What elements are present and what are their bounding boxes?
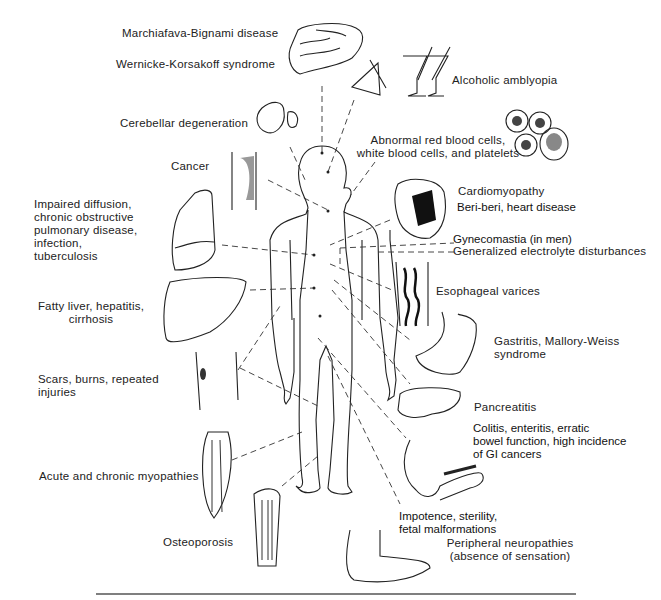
label-scars: Scars, burns, repeated injuries bbox=[38, 373, 159, 399]
label-line: Scars, burns, repeated bbox=[38, 373, 159, 386]
skin-scars-illustration bbox=[196, 352, 238, 410]
brain-illustration bbox=[289, 24, 362, 74]
label-osteoporosis: Osteoporosis bbox=[163, 536, 233, 549]
label-abnormal-blood-cells: Abnormal red blood cells, white blood ce… bbox=[348, 134, 528, 160]
label-colitis: Colitis, enteritis, erratic bowel functi… bbox=[473, 422, 626, 461]
label-line: bowel function, high incidence bbox=[473, 435, 626, 448]
label-line: (absence of sensation) bbox=[440, 550, 580, 563]
label-line: infection, bbox=[34, 237, 137, 250]
foot-illustration bbox=[347, 530, 430, 582]
label-line: of GI cancers bbox=[473, 448, 626, 461]
human-figure bbox=[270, 146, 398, 494]
eye-illustration bbox=[352, 60, 386, 95]
label-marchiafava-bignami: Marchiafava-Bignami disease bbox=[122, 27, 278, 40]
bone-illustration bbox=[254, 489, 280, 566]
cocktail-glasses-illustration bbox=[403, 47, 450, 96]
esophageal-varices-illustration bbox=[396, 262, 428, 326]
stomach-illustration bbox=[416, 312, 476, 374]
pancreas-illustration bbox=[398, 388, 460, 418]
label-line: Abnormal red blood cells, bbox=[348, 134, 528, 147]
label-pancreatitis: Pancreatitis bbox=[474, 401, 536, 414]
label-esophageal-varices: Esophageal varices bbox=[436, 285, 540, 298]
lung-illustration bbox=[172, 190, 215, 270]
esophagus-tumor-illustration bbox=[232, 152, 256, 210]
label-impotence: Impotence, sterility, fetal malformation… bbox=[399, 510, 497, 536]
label-line: Peripheral neuropathies bbox=[440, 537, 580, 550]
label-lung-conditions: Impaired diffusion, chronic obstructive … bbox=[34, 198, 137, 263]
label-line: fetal malformations bbox=[399, 523, 497, 536]
label-line: pulmonary disease, bbox=[34, 224, 137, 237]
label-line: chronic obstructive bbox=[34, 211, 137, 224]
label-line: syndrome bbox=[494, 348, 619, 361]
label-cerebellar-degeneration: Cerebellar degeneration bbox=[120, 117, 248, 130]
intestine-illustration bbox=[404, 440, 483, 500]
label-line: tuberculosis bbox=[34, 250, 137, 263]
label-cancer: Cancer bbox=[171, 160, 209, 173]
liver-illustration bbox=[164, 278, 246, 342]
label-gastritis: Gastritis, Mallory-Weiss syndrome bbox=[494, 335, 619, 361]
label-line: Impaired diffusion, bbox=[34, 198, 137, 211]
label-liver-conditions: Fatty liver, hepatitis, cirrhosis bbox=[36, 300, 146, 326]
label-line: Impotence, sterility, bbox=[399, 510, 497, 523]
label-cardiomyopathy: Cardiomyopathy bbox=[458, 185, 545, 198]
label-alcoholic-amblyopia: Alcoholic amblyopia bbox=[452, 74, 557, 87]
label-line: cirrhosis bbox=[36, 313, 146, 326]
muscle-illustration bbox=[203, 432, 232, 518]
label-peripheral-neuropathies: Peripheral neuropathies (absence of sens… bbox=[440, 537, 580, 563]
label-beri-beri: Beri-beri, heart disease bbox=[457, 201, 576, 214]
label-line: injuries bbox=[38, 386, 159, 399]
label-myopathies: Acute and chronic myopathies bbox=[39, 470, 199, 483]
label-line: Colitis, enteritis, erratic bbox=[473, 422, 626, 435]
cerebellum-illustration bbox=[257, 102, 298, 132]
label-line: Fatty liver, hepatitis, bbox=[36, 300, 146, 313]
label-wernicke-korsakoff: Wernicke-Korsakoff syndrome bbox=[116, 58, 275, 71]
label-line: Gastritis, Mallory-Weiss bbox=[494, 335, 619, 348]
heart-illustration bbox=[395, 179, 445, 238]
label-electrolyte-disturbances: Generalized electrolyte disturbances bbox=[453, 245, 646, 258]
label-line: white blood cells, and platelets bbox=[348, 147, 528, 160]
